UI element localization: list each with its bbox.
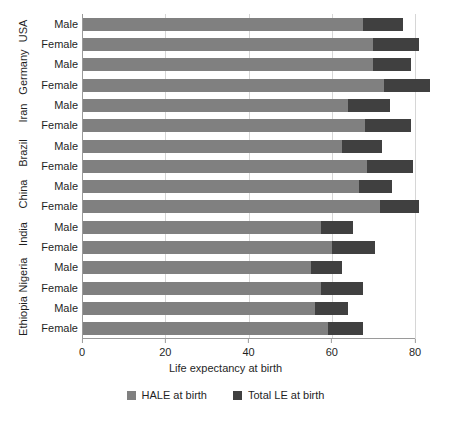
bar-row bbox=[82, 58, 415, 71]
plot-area bbox=[82, 14, 415, 339]
x-axis-tick: 40 bbox=[242, 339, 254, 358]
bar-row bbox=[82, 241, 415, 254]
y-axis-tick-label: Female bbox=[4, 119, 78, 132]
bar-segment-hale bbox=[82, 221, 321, 234]
y-axis-tick-label: Male bbox=[4, 58, 78, 71]
x-axis-tick: 0 bbox=[79, 339, 85, 358]
bar-segment-total-le bbox=[348, 99, 390, 112]
bar-segment-hale bbox=[82, 180, 359, 193]
legend-label-total-le: Total LE at birth bbox=[248, 389, 324, 401]
x-tick-label: 80 bbox=[409, 346, 421, 358]
bar-segment-hale bbox=[82, 18, 363, 31]
bar-segment-hale bbox=[82, 140, 342, 153]
bar-segment-hale bbox=[82, 200, 380, 213]
bar-segment-total-le bbox=[321, 221, 352, 234]
legend-item-hale: HALE at birth bbox=[127, 389, 207, 401]
bar-row bbox=[82, 180, 415, 193]
bar-segment-hale bbox=[82, 79, 384, 92]
bar-segment-hale bbox=[82, 38, 373, 51]
bar-segment-hale bbox=[82, 119, 365, 132]
bar-segment-total-le bbox=[332, 241, 376, 254]
bar-segment-total-le bbox=[365, 119, 411, 132]
y-axis-tick-label: Female bbox=[4, 322, 78, 335]
bar-row bbox=[82, 302, 415, 315]
legend-label-hale: HALE at birth bbox=[142, 389, 207, 401]
bar-segment-total-le bbox=[380, 200, 420, 213]
y-axis-tick-label: Female bbox=[4, 38, 78, 51]
y-axis-tick-label: Male bbox=[4, 302, 78, 315]
bar-row bbox=[82, 282, 415, 295]
bar-segment-total-le bbox=[321, 282, 363, 295]
y-axis-tick-label: Male bbox=[4, 18, 78, 31]
legend-swatch-total-le bbox=[233, 391, 242, 400]
gridline-80 bbox=[415, 14, 416, 339]
y-axis-tick-label: Female bbox=[4, 79, 78, 92]
bar-segment-hale bbox=[82, 241, 332, 254]
x-tick-label: 60 bbox=[326, 346, 338, 358]
x-tick-label: 40 bbox=[242, 346, 254, 358]
bar-segment-total-le bbox=[367, 160, 413, 173]
bar-row bbox=[82, 18, 415, 31]
x-axis-ticks: 020406080 bbox=[82, 339, 415, 361]
bar-segment-hale bbox=[82, 282, 321, 295]
y-axis-tick-label: Male bbox=[4, 221, 78, 234]
bar-row bbox=[82, 322, 415, 335]
bar-segment-total-le bbox=[342, 140, 382, 153]
bar-segment-total-le bbox=[315, 302, 348, 315]
bar-segment-total-le bbox=[373, 38, 419, 51]
y-axis-tick-label: Female bbox=[4, 160, 78, 173]
y-axis-tick-label: Female bbox=[4, 241, 78, 254]
y-axis-tick-label: Female bbox=[4, 282, 78, 295]
x-axis-tick: 60 bbox=[326, 339, 338, 358]
bar-row bbox=[82, 140, 415, 153]
life-expectancy-chart: USAGermanyIranBrazilChinaIndiaNigeriaEth… bbox=[0, 0, 451, 424]
y-axis-tick-label: Male bbox=[4, 99, 78, 112]
legend-swatch-hale bbox=[127, 391, 136, 400]
bar-row bbox=[82, 261, 415, 274]
y-axis-labels: USAGermanyIranBrazilChinaIndiaNigeriaEth… bbox=[0, 14, 78, 339]
bar-segment-hale bbox=[82, 261, 311, 274]
y-axis-tick-label: Male bbox=[4, 261, 78, 274]
bar-row bbox=[82, 160, 415, 173]
bar-row bbox=[82, 200, 415, 213]
legend-item-total-le: Total LE at birth bbox=[233, 389, 324, 401]
x-tick-mark bbox=[415, 339, 416, 343]
bar-segment-hale bbox=[82, 302, 315, 315]
bar-segment-total-le bbox=[373, 58, 410, 71]
bar-segment-total-le bbox=[359, 180, 392, 193]
bar-row bbox=[82, 119, 415, 132]
bar-segment-total-le bbox=[328, 322, 363, 335]
x-tick-label: 0 bbox=[79, 346, 85, 358]
x-axis-title: Life expectancy at birth bbox=[0, 362, 451, 374]
bar-row bbox=[82, 221, 415, 234]
bar-segment-hale bbox=[82, 58, 373, 71]
bar-segment-total-le bbox=[384, 79, 430, 92]
x-axis-tick: 20 bbox=[159, 339, 171, 358]
y-axis-tick-label: Male bbox=[4, 140, 78, 153]
x-tick-mark bbox=[82, 339, 83, 343]
bar-segment-hale bbox=[82, 322, 328, 335]
bar-segment-hale bbox=[82, 160, 367, 173]
x-tick-label: 20 bbox=[159, 346, 171, 358]
x-tick-mark bbox=[331, 339, 332, 343]
chart-legend: HALE at birth Total LE at birth bbox=[0, 389, 451, 401]
bar-row bbox=[82, 99, 415, 112]
bar-row bbox=[82, 79, 415, 92]
bar-row bbox=[82, 38, 415, 51]
x-axis-tick: 80 bbox=[409, 339, 421, 358]
bar-segment-total-le bbox=[363, 18, 403, 31]
y-axis-tick-label: Female bbox=[4, 200, 78, 213]
bar-segment-total-le bbox=[311, 261, 342, 274]
bar-rows bbox=[82, 14, 415, 339]
x-tick-mark bbox=[165, 339, 166, 343]
x-tick-mark bbox=[248, 339, 249, 343]
y-axis-tick-label: Male bbox=[4, 180, 78, 193]
bar-segment-hale bbox=[82, 99, 348, 112]
